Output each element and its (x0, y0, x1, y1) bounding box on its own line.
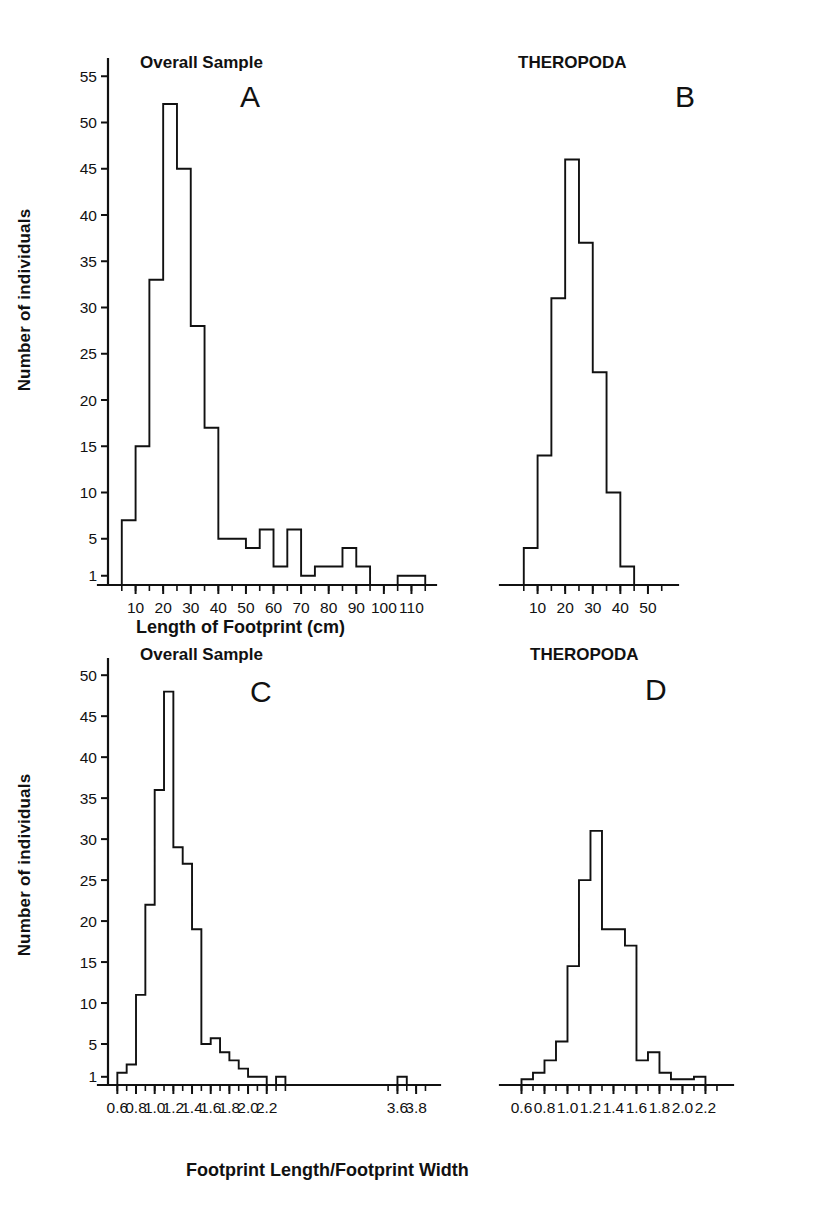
svg-text:5: 5 (88, 1036, 97, 1053)
svg-text:20: 20 (80, 392, 98, 409)
y-axis-title-top-text: Number of individuals (15, 190, 35, 410)
svg-text:40: 40 (80, 207, 98, 224)
svg-text:20: 20 (155, 599, 173, 616)
svg-text:35: 35 (80, 253, 97, 270)
panel-a-plot: 1510152025303540455055102030405060708090… (60, 45, 460, 645)
svg-text:100: 100 (371, 599, 397, 616)
x-axis-title-bottom: Footprint Length/Footprint Width (186, 1160, 469, 1181)
svg-text:10: 10 (127, 599, 145, 616)
svg-text:50: 50 (237, 599, 255, 616)
svg-text:25: 25 (80, 345, 97, 362)
svg-text:30: 30 (182, 599, 200, 616)
panel-d-title: THEROPODA (530, 645, 639, 665)
svg-text:15: 15 (80, 954, 97, 971)
svg-text:45: 45 (80, 708, 97, 725)
svg-text:40: 40 (80, 749, 98, 766)
svg-text:1.4: 1.4 (603, 1099, 625, 1116)
svg-text:40: 40 (612, 599, 630, 616)
svg-text:10: 10 (80, 995, 98, 1012)
y-axis-title-bottom-text: Number of individuals (15, 755, 35, 975)
figure-root: Number of individuals Overall Sample A 1… (0, 0, 837, 1232)
svg-text:55: 55 (80, 68, 97, 85)
svg-text:30: 30 (80, 299, 98, 316)
svg-text:110: 110 (399, 599, 424, 616)
panel-c-title: Overall Sample (140, 645, 263, 665)
panel-c: Overall Sample C 151015202530354045500.6… (60, 645, 460, 1145)
svg-text:1.0: 1.0 (557, 1099, 579, 1116)
panel-c-plot: 151015202530354045500.60.81.01.21.41.61.… (60, 645, 460, 1145)
panel-b-letter: B (675, 80, 695, 114)
svg-text:1.6: 1.6 (626, 1099, 648, 1116)
svg-text:20: 20 (557, 599, 575, 616)
histogram-outline (117, 692, 406, 1085)
svg-text:25: 25 (80, 872, 97, 889)
svg-text:10: 10 (529, 599, 547, 616)
svg-text:10: 10 (80, 484, 98, 501)
panel-a-title: Overall Sample (140, 53, 263, 73)
svg-text:1.8: 1.8 (649, 1099, 671, 1116)
svg-text:15: 15 (80, 438, 97, 455)
histogram-outline (522, 831, 706, 1085)
svg-text:1: 1 (88, 567, 97, 584)
panel-c-letter: C (250, 675, 272, 709)
svg-text:0.6: 0.6 (511, 1099, 533, 1116)
svg-text:40: 40 (210, 599, 228, 616)
svg-text:2.0: 2.0 (672, 1099, 694, 1116)
histogram-outline (524, 160, 634, 586)
panel-a-letter: A (240, 80, 260, 114)
svg-text:30: 30 (584, 599, 602, 616)
x-axis-title-top: Length of Footprint (cm) (136, 617, 345, 638)
svg-text:2.2: 2.2 (695, 1099, 717, 1116)
svg-text:1.2: 1.2 (580, 1099, 602, 1116)
svg-text:3.8: 3.8 (405, 1099, 427, 1116)
panel-b: THEROPODA B 1020304050 (470, 45, 830, 645)
svg-text:45: 45 (80, 160, 97, 177)
svg-text:50: 50 (80, 114, 98, 131)
svg-text:50: 50 (80, 667, 98, 684)
svg-text:70: 70 (292, 599, 310, 616)
panel-d: THEROPODA D 0.60.81.01.21.41.61.82.02.2 (470, 645, 830, 1145)
svg-text:5: 5 (88, 530, 97, 547)
panel-d-plot: 0.60.81.01.21.41.61.82.02.2 (470, 645, 830, 1145)
panel-b-plot: 1020304050 (470, 45, 830, 645)
svg-text:0.8: 0.8 (534, 1099, 556, 1116)
svg-text:80: 80 (320, 599, 338, 616)
panel-d-letter: D (645, 673, 667, 707)
svg-text:30: 30 (80, 831, 98, 848)
svg-text:60: 60 (265, 599, 283, 616)
svg-text:90: 90 (348, 599, 366, 616)
svg-text:1: 1 (88, 1068, 97, 1085)
svg-text:2.2: 2.2 (256, 1099, 278, 1116)
panel-b-title: THEROPODA (518, 53, 627, 73)
svg-text:35: 35 (80, 790, 97, 807)
histogram-outline (122, 104, 425, 585)
svg-text:50: 50 (639, 599, 657, 616)
svg-text:20: 20 (80, 913, 98, 930)
panel-a: Overall Sample A 15101520253035404550551… (60, 45, 460, 645)
